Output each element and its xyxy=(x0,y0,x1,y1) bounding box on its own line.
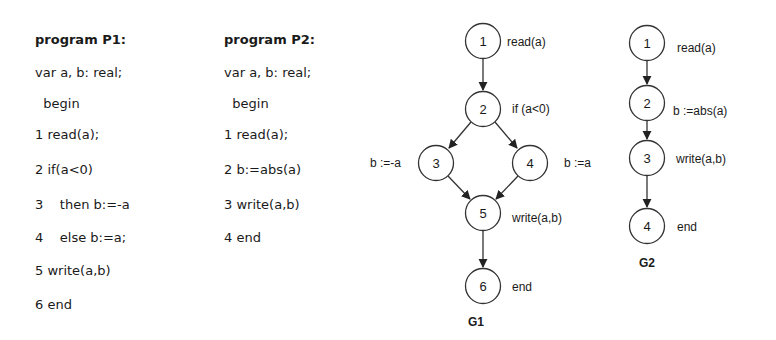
g1-node-2: 2 if (a<0) xyxy=(466,92,550,127)
svg-text:write(a,b): write(a,b) xyxy=(511,211,562,225)
g2-node-2: 2 b :=abs(a) xyxy=(630,86,728,121)
svg-text:4: 4 xyxy=(643,219,650,234)
svg-text:3: 3 xyxy=(643,151,650,166)
svg-text:read(a): read(a) xyxy=(677,41,716,55)
svg-text:b :=a: b :=a xyxy=(564,156,591,170)
g2-node-3: 3 write(a,b) xyxy=(630,141,727,176)
g2-caption: G2 xyxy=(639,256,655,270)
svg-text:end: end xyxy=(677,220,697,234)
svg-text:end: end xyxy=(512,280,532,294)
g2-node-1: 1 read(a) xyxy=(630,26,716,61)
svg-text:b :=-a: b :=-a xyxy=(370,156,401,170)
svg-text:if (a<0): if (a<0) xyxy=(512,102,550,116)
svg-text:write(a,b): write(a,b) xyxy=(675,152,726,166)
svg-text:3: 3 xyxy=(432,156,439,171)
svg-text:4: 4 xyxy=(526,156,533,171)
g1-node-6: 6 end xyxy=(466,269,533,304)
g1-node-4: 4 b :=a xyxy=(513,146,592,181)
svg-text:2: 2 xyxy=(643,96,650,111)
svg-text:1: 1 xyxy=(479,34,486,49)
g1-node-3: 3 b :=-a xyxy=(370,146,454,181)
svg-text:1: 1 xyxy=(643,36,650,51)
svg-text:5: 5 xyxy=(479,206,486,221)
svg-text:b :=abs(a): b :=abs(a) xyxy=(673,104,727,118)
g1-caption: G1 xyxy=(468,315,484,329)
svg-text:2: 2 xyxy=(479,102,486,117)
g1-edges xyxy=(448,59,518,267)
g1-node-5: 5 write(a,b) xyxy=(466,196,563,231)
g1-node-1: 1 read(a) xyxy=(466,24,546,59)
flow-graphs: 1 read(a) 2 if (a<0) 3 b :=-a 4 b :=a 5 … xyxy=(0,0,776,340)
g2-node-4: 4 end xyxy=(630,209,698,244)
svg-text:read(a): read(a) xyxy=(507,35,546,49)
svg-text:6: 6 xyxy=(479,279,486,294)
